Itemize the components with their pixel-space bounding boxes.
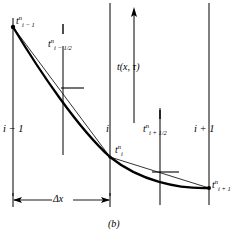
tick-marks (63, 24, 160, 119)
label-node-i-plus-1: i + 1 (194, 124, 215, 135)
label-t-axis: t(x, τ) (117, 62, 139, 72)
label-t-i-minus-1-n-sub: i − 1 (22, 21, 35, 28)
label-t-i-minus-1-n: tni − 1 (16, 15, 35, 29)
figure-caption: (b) (108, 219, 120, 229)
label-t-i-plus-1-n-sup: n (215, 178, 218, 185)
label-t-i-plus-half-n-sub: i + 1/2 (149, 129, 167, 136)
label-t-i-n: tni (115, 144, 123, 158)
figure-root: tni − 1 tni − 1/2 tni tni + 1/2 tni + 1 … (0, 0, 231, 236)
temperature-profile-curve (13, 27, 209, 188)
label-delta-x: Δx (53, 194, 63, 204)
label-t-i-n-sup: n (118, 143, 121, 150)
secant-chords (13, 27, 209, 188)
figure-canvas (0, 0, 231, 236)
label-t-i-plus-half-n: tni + 1/2 (143, 123, 167, 137)
marker-i-plus-1 (207, 186, 211, 190)
label-t-i-plus-1-n-sub: i + 1 (218, 185, 231, 192)
label-t-i-minus-1-n-sup: n (19, 14, 22, 21)
curve-markers (11, 25, 211, 190)
label-t-i-minus-half-n-sup: n (51, 37, 54, 44)
label-node-i-minus-1: i − 1 (3, 124, 24, 135)
grid-lines (13, 3, 209, 205)
label-t-i-n-sub: i (121, 150, 123, 157)
label-t-i-minus-half-n-sub: i − 1/2 (54, 44, 72, 51)
label-t-i-minus-half-n: tni − 1/2 (48, 38, 72, 52)
label-t-i-plus-half-n-sup: n (146, 122, 149, 129)
marker-i-minus-1 (11, 25, 15, 29)
marker-i (108, 155, 111, 158)
label-t-i-plus-1-n: tni + 1 (212, 179, 231, 193)
label-node-i: i (106, 124, 109, 135)
